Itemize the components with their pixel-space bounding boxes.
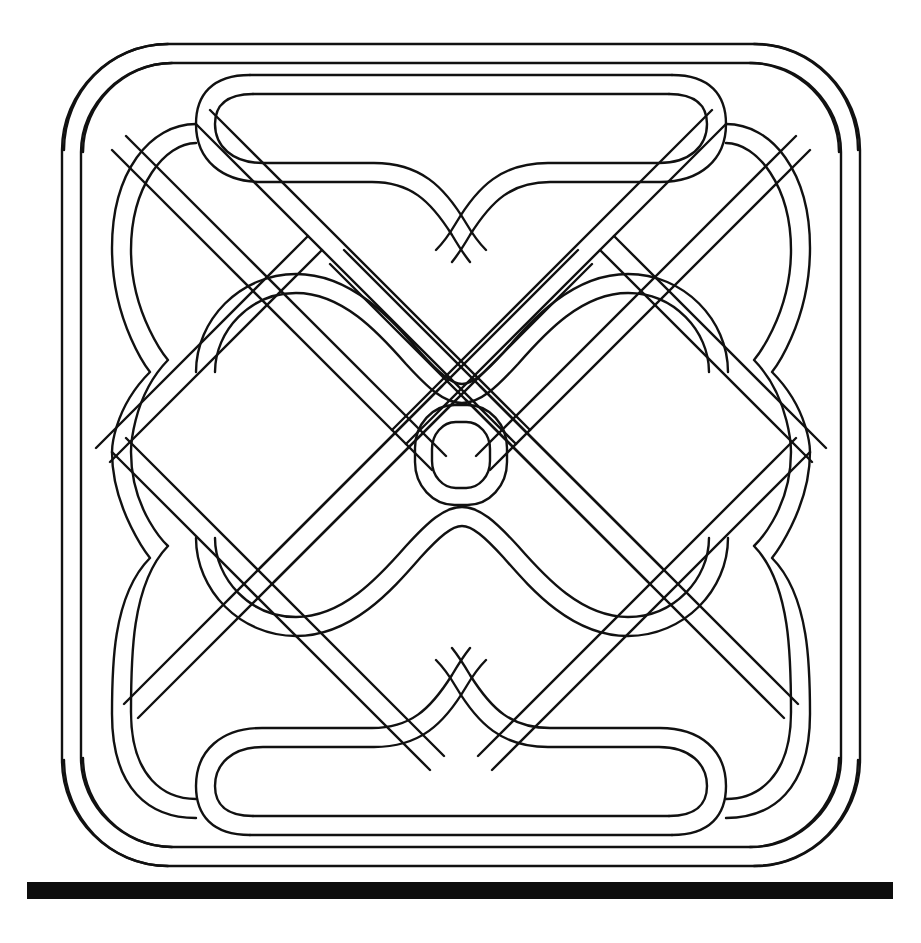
left-wave-outer-edge [131,143,196,799]
outer-frame-band [62,44,860,866]
diagonal-nw-se-2-edge-a [112,452,430,770]
diagonal-nw-se-6-edge-a [600,250,812,462]
celtic-knot-drawing [0,0,921,943]
diagonal-ne-sw-5-edge-b [124,386,442,704]
baseline-rule [27,882,893,899]
right-wave-inner-edge [726,124,810,818]
diagonal-ne-sw-5-edge-a [138,400,456,718]
diagonal-nw-se-3-edge-a [196,124,516,444]
corner-loop-tr-outer [754,44,858,150]
bottom-horizontal-band [196,648,726,835]
diagonal-nw-se-3-edge-b [210,110,530,430]
corner-loop-top-left [64,44,172,152]
left-wave-inner-edge [112,124,196,818]
right-wave-column [726,124,810,818]
diagonal-nw-se-1-edge-a [112,150,432,470]
diagonal-nw-se-2-edge-b [126,438,444,756]
corner-loop-bottom-left [64,758,172,866]
upper-inner-arc-pair [196,274,728,403]
outer-frame-outer-contour [62,44,860,866]
corner-loop-br-inner [750,758,839,847]
corner-loop-bl-outer [64,760,168,866]
corner-loop-br-outer [754,760,858,866]
corner-loop-bl-inner [83,758,172,847]
corner-loop-top-right [750,44,858,152]
diagonal-ne-sw-2-edge-a [492,452,810,770]
left-wave-column [112,124,196,818]
right-wave-outer-edge [726,143,791,799]
diagonal-ne-sw-1-edge-a [490,150,810,470]
center-ring-inner [432,422,490,488]
diagonal-ne-sw-1-edge-b [476,136,796,456]
corner-loop-bottom-right [750,758,858,866]
diagonal-nw-se-6-edge-b [614,236,826,448]
diagonal-ne-sw-3-edge-b [392,110,712,430]
diagonal-ne-sw-2-edge-b [478,438,796,756]
corner-loop-tl-outer [64,44,168,150]
artwork-page [0,0,921,943]
outer-frame-inner-contour [81,63,841,847]
top-horizontal-band [196,75,726,262]
diagonal-ne-sw-3-edge-a [406,124,726,444]
diagonal-nw-se-1-edge-b [126,136,446,456]
